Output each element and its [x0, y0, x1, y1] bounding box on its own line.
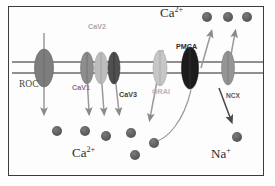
- label-sodium-intracellular: Na+: [211, 147, 231, 160]
- ion-calcium: [101, 131, 111, 141]
- ion-calcium: [202, 12, 212, 22]
- label-channel-pmca: PMCA: [176, 43, 197, 50]
- label-channel-cav1: CaV1: [72, 84, 90, 91]
- channel-pmca: [182, 47, 199, 89]
- ion-calcium: [149, 138, 159, 148]
- ion-calcium: [80, 126, 90, 136]
- channel-orai: [153, 50, 167, 86]
- ion-calcium: [52, 126, 62, 136]
- channel-cav2: [95, 52, 108, 84]
- label-channel-cav3: CaV3: [119, 91, 137, 98]
- ion-calcium: [130, 150, 140, 160]
- ion-calcium: [242, 12, 252, 22]
- label-calcium-extracellular: Ca2+: [160, 6, 183, 19]
- channel-ncx: [222, 51, 235, 85]
- channel-cav1: [81, 52, 94, 84]
- label-channel-roc: ROC: [19, 80, 39, 90]
- ion-sodium: [232, 132, 242, 142]
- membrane-transport-figure: Ca2+ Ca2+ Na+ ROC CaV1 CaV2 CaV3 ORAI PM…: [0, 0, 275, 186]
- curve-pmca-calcium-path: [153, 90, 191, 142]
- label-calcium-intracellular: Ca2+: [72, 146, 95, 159]
- channel-cav3: [108, 52, 120, 84]
- label-channel-cav2: CaV2: [88, 23, 106, 30]
- ion-calcium: [126, 128, 136, 138]
- ion-calcium: [223, 12, 233, 22]
- label-channel-ncx: NCX: [226, 93, 240, 100]
- label-channel-orai: ORAI: [152, 88, 170, 95]
